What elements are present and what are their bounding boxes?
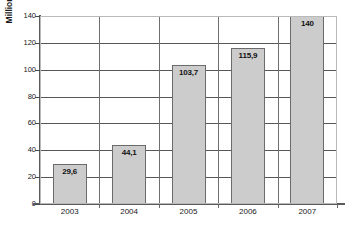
plot-area: 29,644,1103,7115,9140 — [40, 16, 337, 204]
y-tick-mark — [35, 123, 40, 124]
x-tick-mark — [159, 205, 160, 208]
y-tick-mark — [35, 97, 40, 98]
y-tick-label: 60 — [16, 119, 36, 127]
y-tick-mark — [35, 204, 40, 205]
bar[interactable]: 115,9 — [231, 48, 265, 204]
category-separator — [159, 16, 160, 204]
y-tick-label: 40 — [16, 146, 36, 154]
y-tick-label: 20 — [16, 173, 36, 181]
y-tick-mark — [35, 70, 40, 71]
y-axis-tick-labels: 020406080100120140 — [16, 0, 36, 229]
x-tick-label: 2005 — [180, 207, 198, 216]
y-axis-title-text: Millionen — [4, 0, 14, 23]
bar[interactable]: 103,7 — [172, 65, 206, 204]
category-separator — [99, 16, 100, 204]
x-tick-mark — [278, 205, 279, 208]
category-separator — [278, 16, 279, 204]
y-tick-label: 140 — [16, 12, 36, 20]
x-tick-label: 2007 — [298, 207, 316, 216]
bar[interactable]: 29,6 — [53, 164, 87, 204]
x-axis-tick-labels: 20032004200520062007 — [40, 207, 337, 223]
bar-value-label: 29,6 — [62, 167, 77, 176]
y-tick-mark — [35, 16, 40, 17]
bar-value-label: 115,9 — [239, 51, 258, 60]
y-tick-mark — [35, 43, 40, 44]
bar-value-label: 140 — [301, 19, 314, 28]
x-tick-mark — [99, 205, 100, 208]
bar-value-label: 103,7 — [179, 68, 198, 77]
category-separator — [218, 16, 219, 204]
bar-chart: Millionen 020406080100120140 29,644,1103… — [0, 0, 357, 229]
x-tick-label: 2006 — [239, 207, 257, 216]
x-tick-label: 2004 — [120, 207, 138, 216]
x-tick-label: 2003 — [61, 207, 79, 216]
bar[interactable]: 44,1 — [112, 145, 146, 204]
y-tick-label: 100 — [16, 66, 36, 74]
bar[interactable]: 140 — [290, 16, 324, 204]
bar-value-label: 44,1 — [122, 148, 137, 157]
x-tick-mark — [337, 205, 338, 208]
y-tick-label: 120 — [16, 39, 36, 47]
y-tick-mark — [35, 177, 40, 178]
x-tick-mark — [218, 205, 219, 208]
y-tick-mark — [35, 150, 40, 151]
y-tick-label: 80 — [16, 93, 36, 101]
